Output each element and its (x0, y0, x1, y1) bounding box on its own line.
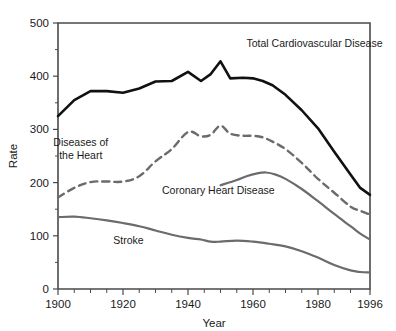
y-axis-title: Rate (7, 144, 19, 168)
x-tick-label: 1980 (305, 298, 331, 310)
series-label-total-cardiovascular-disease: Total Cardiovascular Disease (247, 37, 383, 49)
y-axis-tick-labels: 0100200300400500 (30, 17, 49, 295)
x-tick-label: 1996 (357, 298, 383, 310)
y-tick-label: 200 (30, 177, 49, 189)
y-tick-label: 300 (30, 123, 49, 135)
x-axis-tick-labels: 190019201940196019801996 (45, 298, 383, 310)
mortality-rate-line-chart: 0100200300400500 19001920194019601980199… (0, 0, 396, 331)
series-line-stroke (58, 217, 370, 273)
y-tick-label: 500 (30, 17, 49, 29)
y-tick-label: 100 (30, 230, 49, 242)
data-series-group (58, 61, 370, 272)
y-tick-label: 0 (43, 283, 49, 295)
series-line-coronary-heart-disease (221, 172, 371, 239)
x-tick-label: 1920 (110, 298, 136, 310)
series-label-diseases-of-the-heart: Diseases ofthe Heart (53, 136, 108, 161)
axes-group (58, 23, 370, 289)
axis-frame (58, 23, 370, 289)
x-tick-label: 1900 (45, 298, 71, 310)
x-tick-label: 1960 (240, 298, 266, 310)
y-tick-label: 400 (30, 70, 49, 82)
x-tick-label: 1940 (175, 298, 201, 310)
x-axis-ticks (58, 289, 370, 295)
series-line-total-cardiovascular-disease (58, 61, 370, 195)
x-axis-title: Year (202, 317, 225, 329)
series-label-stroke: Stroke (113, 234, 144, 246)
chart-container: 0100200300400500 19001920194019601980199… (0, 0, 396, 331)
series-label-coronary-heart-disease: Coronary Heart Disease (162, 184, 275, 196)
